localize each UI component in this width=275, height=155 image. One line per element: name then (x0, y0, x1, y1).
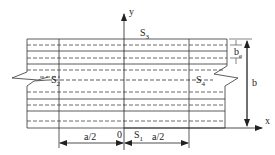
x-axis-label: x (265, 116, 270, 126)
edge-label-s3: S3 (140, 28, 149, 41)
be-sub: e (239, 52, 242, 60)
edge-s1-sub: 1 (140, 135, 144, 143)
edge-s3-sub: 3 (146, 33, 150, 41)
y-axis-label: y (129, 7, 134, 17)
edge-s4-sub: 4 (202, 80, 206, 88)
plate-upper (27, 39, 227, 72)
be-label: be (234, 47, 242, 60)
edge-label-s1: S1 (134, 130, 143, 143)
a-half-left-label: a/2 (84, 132, 96, 142)
edge-label-s4: S4 (196, 75, 205, 88)
plate-diagram: y x 0 S3 S2 S4 S1 b be a/2 a/2 (0, 0, 275, 155)
b-label: b (252, 78, 257, 88)
plate-upper-dashed (27, 45, 227, 70)
a-half-right-label: a/2 (152, 132, 164, 142)
edge-label-s2: S2 (51, 75, 60, 88)
plate-lower-dashed (27, 92, 225, 121)
origin-label: 0 (117, 130, 122, 140)
edge-s2-sub: 2 (57, 80, 61, 88)
